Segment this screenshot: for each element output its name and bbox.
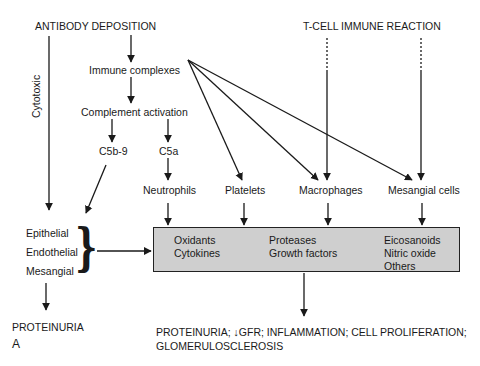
arrow-complexes-to-platelets — [188, 60, 242, 180]
node-macrophages: Macrophages — [299, 184, 363, 196]
curly-brace-icon: } — [75, 222, 98, 272]
node-complement-activation: Complement activation — [81, 106, 188, 118]
outcome-left-proteinuria: PROTEINURIA — [12, 321, 84, 333]
resident-cell-endothelial: Endothelial — [26, 246, 78, 258]
outcome-right-line2: GLOMERULOSCLEROSIS — [156, 340, 283, 352]
mediator-column-2: Proteases Growth factors — [269, 234, 337, 260]
arrow-complexes-to-macrophages — [188, 60, 318, 180]
node-platelets: Platelets — [225, 184, 265, 196]
node-immune-complexes: Immune complexes — [89, 64, 180, 76]
mediator-growth-factors: Growth factors — [269, 247, 337, 260]
arrow-c5b9-to-resident — [86, 165, 106, 213]
mediator-column-3: Eicosanoids Nitric oxide Others — [384, 234, 441, 273]
mediator-column-1: Oxidants Cytokines — [174, 234, 220, 260]
node-neutrophils: Neutrophils — [143, 184, 196, 196]
node-c5a: C5a — [159, 145, 178, 157]
mediator-oxidants: Oxidants — [174, 234, 220, 247]
source-tcell-immune-reaction: T-CELL IMMUNE REACTION — [303, 20, 441, 32]
mediator-box: Oxidants Cytokines Proteases Growth fact… — [153, 227, 460, 272]
mediator-others: Others — [384, 260, 441, 273]
source-antibody-deposition: ANTIBODY DEPOSITION — [35, 20, 156, 32]
outcome-right-line1: PROTEINURIA; ↓GFR; INFLAMMATION; CELL PR… — [156, 326, 467, 338]
resident-cell-mesangial: Mesangial — [26, 265, 74, 277]
mediator-eicosanoids: Eicosanoids — [384, 234, 441, 247]
resident-cell-epithelial: Epithelial — [26, 227, 69, 239]
arrow-complexes-to-mesangial — [188, 60, 412, 180]
node-mesangial-cells: Mesangial cells — [388, 184, 460, 196]
node-c5b9: C5b-9 — [99, 145, 128, 157]
mediator-nitric-oxide: Nitric oxide — [384, 247, 441, 260]
mediator-proteases: Proteases — [269, 234, 337, 247]
arrow-layer — [0, 0, 480, 366]
mediator-cytokines: Cytokines — [174, 247, 220, 260]
cytotoxic-label: Cytotoxic — [30, 75, 42, 118]
panel-letter: A — [12, 337, 20, 351]
